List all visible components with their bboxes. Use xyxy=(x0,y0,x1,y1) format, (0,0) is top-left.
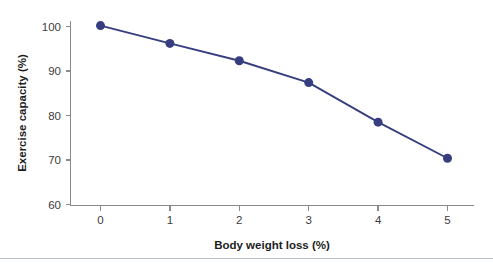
data-point-x4 xyxy=(374,118,383,127)
series-markers-exercise-capacity xyxy=(96,21,452,163)
y-axis-ticks xyxy=(66,27,71,205)
y-axis-title: Exercise capacity (%) xyxy=(16,54,28,172)
x-tick-label-2: 2 xyxy=(236,214,242,226)
series-line-exercise-capacity xyxy=(101,26,448,159)
y-tick-label-90: 90 xyxy=(48,65,61,77)
x-tick-label-0: 0 xyxy=(97,214,103,226)
y-tick-label-100: 100 xyxy=(42,21,61,33)
x-axis-ticks xyxy=(101,206,448,212)
x-tick-label-4: 4 xyxy=(375,214,382,226)
data-point-x1 xyxy=(165,39,174,48)
bottom-divider-rule xyxy=(0,258,493,259)
line-chart: 100 90 80 70 60 0 1 2 3 4 5 Body weight … xyxy=(0,0,493,271)
x-tick-label-5: 5 xyxy=(444,214,450,226)
data-point-x2 xyxy=(235,56,244,65)
y-tick-label-80: 80 xyxy=(48,110,61,122)
data-point-x0 xyxy=(96,21,105,30)
data-point-x5 xyxy=(443,154,452,163)
x-axis-tick-labels: 0 1 2 3 4 5 xyxy=(97,214,450,226)
figure-panel: 100 90 80 70 60 0 1 2 3 4 5 Body weight … xyxy=(0,0,493,271)
x-tick-label-1: 1 xyxy=(167,214,173,226)
y-axis-tick-labels: 100 90 80 70 60 xyxy=(42,21,61,211)
x-axis-title: Body weight loss (%) xyxy=(214,239,330,251)
x-tick-label-3: 3 xyxy=(305,214,311,226)
data-point-x3 xyxy=(304,78,313,87)
y-tick-label-60: 60 xyxy=(48,199,61,211)
y-tick-label-70: 70 xyxy=(48,154,61,166)
